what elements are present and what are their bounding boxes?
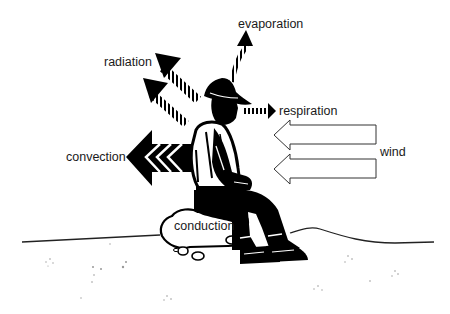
- respiration-arrow: [242, 103, 276, 119]
- ground-speckles: [45, 243, 399, 300]
- wind-arrow-1: [274, 120, 376, 150]
- radiation-arrow-1: [155, 53, 198, 100]
- convection-arrow: [126, 130, 192, 186]
- convection-label: convection: [66, 151, 126, 164]
- conduction-label: conduction: [174, 220, 234, 233]
- respiration-label: respiration: [279, 105, 337, 118]
- evaporation-label: evaporation: [238, 18, 303, 31]
- wind-arrow-2: [274, 154, 376, 184]
- evaporation-arrow: [232, 30, 253, 82]
- wind-label: wind: [380, 146, 406, 159]
- heat-transfer-diagram: evaporation radiation respiration convec…: [0, 0, 450, 314]
- radiation-label: radiation: [104, 56, 152, 69]
